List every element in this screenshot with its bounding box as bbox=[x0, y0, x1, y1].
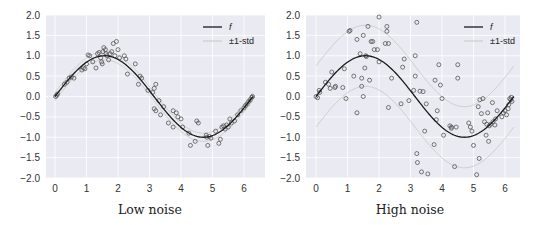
y-tick-label: −1.5 bbox=[20, 152, 40, 163]
y-tick-label: 0.5 bbox=[26, 71, 40, 82]
y-tick-label: −2.0 bbox=[20, 173, 40, 184]
y-tick-label: −1.0 bbox=[280, 132, 300, 143]
x-tick-label: 5 bbox=[210, 183, 216, 194]
y-tick-label: −1.0 bbox=[20, 132, 40, 143]
y-tick-label: 1.5 bbox=[286, 30, 300, 41]
y-tick-label: 1.0 bbox=[286, 50, 300, 61]
x-axis-ticks: 0123456 bbox=[313, 183, 508, 194]
y-tick-label: 0.5 bbox=[286, 71, 300, 82]
y-tick-label: −0.5 bbox=[280, 111, 300, 122]
legend-std-label: ±1-std bbox=[229, 36, 254, 46]
panel-caption: High noise bbox=[376, 202, 444, 217]
x-tick-label: 0 bbox=[313, 183, 319, 194]
x-axis-ticks: 0123456 bbox=[52, 183, 247, 194]
panel-caption: Low noise bbox=[118, 202, 182, 217]
x-tick-label: 4 bbox=[439, 183, 445, 194]
y-tick-label: 2.0 bbox=[286, 10, 300, 21]
x-tick-label: 1 bbox=[345, 183, 351, 194]
legend-std-label: ±1-std bbox=[490, 36, 515, 46]
y-tick-label: −2.0 bbox=[280, 173, 300, 184]
y-tick-label: 1.5 bbox=[26, 30, 40, 41]
y-tick-label: 1.0 bbox=[26, 50, 40, 61]
low-noise-panel: 2.01.51.00.50.0−0.5−1.0−1.5−2.0 0123456 … bbox=[20, 10, 265, 218]
y-axis-ticks: 2.01.51.00.50.0−0.5−1.0−1.5−2.0 bbox=[20, 10, 40, 184]
figure: 2.01.51.00.50.0−0.5−1.0−1.5−2.0 0123456 … bbox=[0, 0, 541, 225]
plot-area bbox=[306, 15, 520, 178]
x-tick-label: 5 bbox=[471, 183, 477, 194]
y-tick-label: −1.5 bbox=[280, 152, 300, 163]
x-tick-label: 1 bbox=[84, 183, 90, 194]
y-tick-label: 2.0 bbox=[26, 10, 40, 21]
y-tick-label: 0.0 bbox=[286, 91, 300, 102]
y-tick-label: −0.5 bbox=[20, 111, 40, 122]
high-noise-panel: 2.01.51.00.50.0−0.5−1.0−1.5−2.0 0123456 … bbox=[280, 10, 520, 218]
x-tick-label: 3 bbox=[408, 183, 414, 194]
x-tick-label: 6 bbox=[241, 183, 247, 194]
x-tick-label: 2 bbox=[115, 183, 121, 194]
x-tick-label: 6 bbox=[502, 183, 508, 194]
x-tick-label: 0 bbox=[52, 183, 58, 194]
x-tick-label: 2 bbox=[376, 183, 382, 194]
x-tick-label: 3 bbox=[147, 183, 153, 194]
y-axis-ticks: 2.01.51.00.50.0−0.5−1.0−1.5−2.0 bbox=[280, 10, 300, 184]
x-tick-label: 4 bbox=[178, 183, 184, 194]
y-tick-label: 0.0 bbox=[26, 91, 40, 102]
